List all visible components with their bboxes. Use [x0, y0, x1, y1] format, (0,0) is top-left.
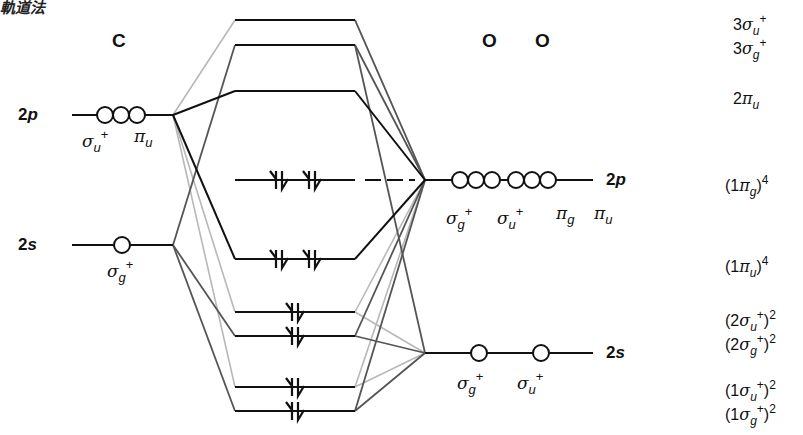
carbon-2s-level: [72, 237, 173, 253]
oxygen-2p-sym-pi-u: πu: [594, 205, 612, 226]
atom-label-oxygen-2: O: [535, 31, 550, 50]
carbon-2p-sym-pi-u: πu: [134, 128, 152, 149]
mo-label-1pi-g: (1πg)4: [725, 174, 768, 198]
oxygen-2p-sym-sigma-g: σg+: [446, 205, 472, 231]
mo-label-1sigma-g: (1σg+)2: [725, 403, 776, 427]
title-fragment: 軌道法: [0, 0, 45, 15]
carbon-2p-orbital-sigma-u: [97, 107, 113, 123]
carbon-shell-label-2s: 2s: [18, 236, 37, 253]
mo-label-1pi-u: (1πu)4: [725, 255, 768, 279]
carbon-2s-orbital-sigma-g: [114, 237, 130, 253]
oxygen-2p-sym-pi-g: πg: [556, 205, 574, 226]
carbon-2s-sym-sigma-g: σg+: [107, 258, 133, 284]
oxygen-2p-level: [425, 172, 593, 188]
oxygen-shell-label-2s: 2s: [606, 344, 625, 361]
mo-diagram-canvas: [0, 0, 803, 435]
oxygen-2s-sym-sigma-g: σg+: [457, 370, 483, 396]
carbon-shell-label-2p: 2p: [18, 106, 38, 123]
mo-label-2sigma-g: (2σg+)2: [725, 333, 776, 357]
oxygen-2s-level: [425, 345, 593, 361]
electron-pairs: [270, 171, 321, 420]
mo-label-1sigma-u: (1σu+)2: [725, 379, 776, 403]
oxygen-2p-sym-sigma-u: σu+: [497, 205, 523, 231]
carbon-2p-orbital-pi-u-1: [113, 107, 129, 123]
carbon-2p-level: [72, 107, 173, 123]
mo-label-3sigma-u: 3σu+: [733, 13, 767, 37]
atom-label-carbon: C: [112, 31, 126, 50]
mo-label-2pi-u: 2πu: [733, 91, 759, 111]
carbon-2p-sym-sigma-u: σu+: [82, 128, 108, 154]
oxygen-shell-label-2p: 2p: [606, 171, 626, 188]
mo-label-3sigma-g: 3σg+: [733, 37, 767, 61]
atom-label-oxygen-1: O: [482, 31, 497, 50]
correlation-lines-mid: [173, 20, 425, 411]
mo-label-2sigma-u: (2σu+)2: [725, 309, 776, 333]
oxygen-2s-sym-sigma-u: σu+: [517, 370, 543, 396]
carbon-2p-orbital-pi-u-2: [129, 107, 145, 123]
mo-levels: [235, 20, 415, 411]
